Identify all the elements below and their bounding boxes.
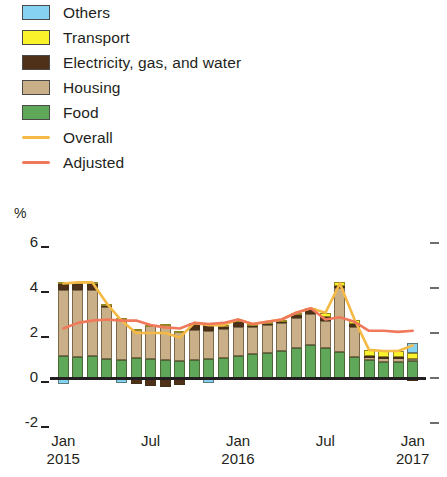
- x-axis-month: Jul: [116, 432, 186, 450]
- series-line: [63, 282, 412, 351]
- x-axis-month: Jan: [28, 432, 98, 450]
- chart-figure: OthersTransportElectricity, gas, and wat…: [0, 0, 447, 477]
- x-axis-tick-label: Jan2015: [28, 432, 98, 468]
- x-axis-year: 2017: [378, 450, 447, 468]
- x-axis-year: 2016: [203, 450, 273, 468]
- x-axis-year: 2015: [28, 450, 98, 468]
- x-axis-month: Jan: [378, 432, 447, 450]
- x-axis-tick-label: Jul: [290, 432, 360, 450]
- line-overlay: [0, 0, 447, 477]
- x-axis-tick-label: Jan2017: [378, 432, 447, 468]
- x-axis-tick-label: Jul: [116, 432, 186, 450]
- x-axis-month: Jan: [203, 432, 273, 450]
- x-axis-tick-label: Jan2016: [203, 432, 273, 468]
- x-axis-month: Jul: [290, 432, 360, 450]
- series-line: [63, 308, 412, 332]
- plot-area: 6420-2Jan2015JulJan2016JulJan2017: [0, 0, 447, 477]
